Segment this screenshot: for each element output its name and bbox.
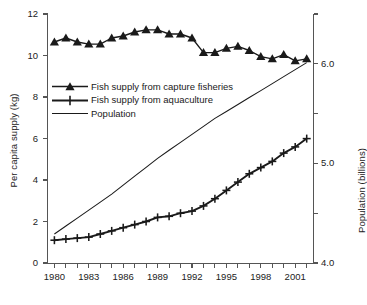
legend-item-capture-fisheries: Fish supply from capture fisheries (52, 80, 233, 93)
legend-label-population: Population (91, 107, 136, 120)
series-aquaculture-markers (50, 135, 310, 245)
y2tick-label-6-0: 6.0 (321, 58, 351, 69)
ytick-label-2: 2 (12, 216, 38, 227)
right-axis-ticks (314, 14, 319, 263)
series-capture-fisheries-markers (50, 25, 312, 64)
xtick-label-1983: 1983 (72, 271, 106, 282)
xtick-label-1995: 1995 (209, 271, 243, 282)
xtick-label-2001: 2001 (278, 271, 312, 282)
legend-label-aquaculture: Fish supply from aquaculture (91, 93, 213, 106)
xtick-label-1998: 1998 (244, 271, 278, 282)
xtick-label-1989: 1989 (141, 271, 175, 282)
ytick-label-10: 10 (12, 50, 38, 61)
xtick-label-1986: 1986 (106, 271, 140, 282)
xtick-label-1980: 1980 (37, 271, 71, 282)
ytick-label-0: 0 (12, 257, 38, 268)
y-axis-title-right: Population (billions) (356, 126, 367, 256)
plus-line-key-icon (52, 94, 88, 107)
y2tick-label-4-0: 4.0 (321, 257, 351, 268)
series-aquaculture-line (54, 139, 306, 241)
plain-line-key-icon (52, 107, 88, 120)
triangle-line-key-icon (52, 80, 88, 93)
legend-item-population: Population (52, 107, 233, 120)
y-axis-title-left: Per capita supply (kg) (8, 76, 19, 206)
legend-item-aquaculture: Fish supply from aquaculture (52, 93, 233, 106)
left-axis-ticks (43, 14, 48, 263)
chart-legend: Fish supply from capture fisheries Fish … (52, 80, 233, 120)
y2tick-label-5-0: 5.0 (321, 157, 351, 168)
xtick-label-1992: 1992 (175, 271, 209, 282)
ytick-label-12: 12 (12, 8, 38, 19)
legend-label-capture-fisheries: Fish supply from capture fisheries (91, 80, 233, 93)
axis-spines (48, 14, 314, 264)
